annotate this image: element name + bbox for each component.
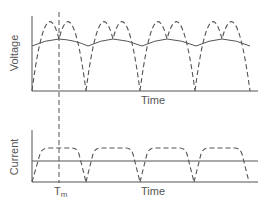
smoothed-voltage-curve: [32, 39, 250, 46]
current-plot: Current Time Tm: [8, 130, 258, 199]
current-axis-label: Current: [8, 139, 20, 176]
rectified-voltage-curve: [32, 22, 250, 91]
pulsed-current-curve: [32, 148, 249, 182]
voltage-plot: Voltage Time: [8, 16, 258, 106]
voltage-axis-label: Voltage: [8, 35, 20, 72]
waveform-diagram: Voltage Time Current Time Tm: [0, 0, 270, 208]
voltage-time-label: Time: [141, 94, 165, 106]
tm-label: Tm: [54, 185, 68, 199]
current-time-label: Time: [141, 185, 165, 197]
tm-label-subscript: m: [61, 190, 68, 199]
